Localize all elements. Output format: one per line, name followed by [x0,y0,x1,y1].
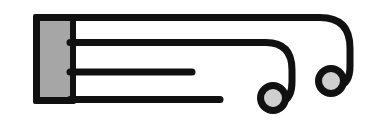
diagram-canvas [0,0,383,125]
block-fill [40,21,70,97]
terminal-circle-line-1 [319,69,344,94]
terminal-circle-line-2 [261,86,286,111]
